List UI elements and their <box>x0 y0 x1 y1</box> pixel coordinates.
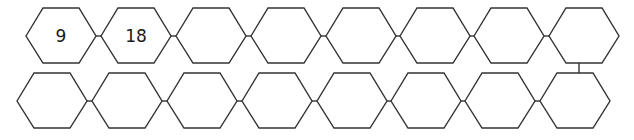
hex-top-6 <box>400 8 470 63</box>
hex-top-4 <box>251 8 321 63</box>
hex-bottom-3 <box>167 73 237 128</box>
hex-bottom-1 <box>17 73 87 128</box>
hex-top-3 <box>176 8 246 63</box>
bottom-row <box>17 73 610 128</box>
hex-top-2-value: 18 <box>101 26 171 46</box>
hex-top-8 <box>549 8 619 63</box>
hex-top-5 <box>326 8 396 63</box>
hex-bottom-6 <box>391 73 461 128</box>
hex-bottom-2 <box>92 73 162 128</box>
hex-top-7 <box>474 8 544 63</box>
hex-bottom-4 <box>242 73 312 128</box>
hex-bottom-8 <box>540 73 610 128</box>
hex-top-1-value: 9 <box>26 26 96 46</box>
hexagon-chain <box>0 0 634 140</box>
hex-bottom-7 <box>465 73 535 128</box>
hex-bottom-5 <box>317 73 387 128</box>
